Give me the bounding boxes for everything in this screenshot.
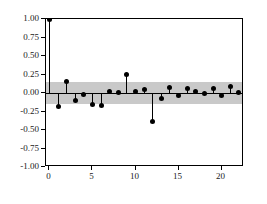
- x-axis-tick-label: 5: [81, 172, 101, 181]
- data-point-marker: [150, 119, 155, 124]
- y-axis-tick-label: 0.00: [23, 88, 39, 97]
- data-point-marker: [73, 98, 78, 103]
- y-axis-tick: [41, 166, 45, 167]
- x-axis-tick-label: 10: [125, 172, 145, 181]
- stem-line: [126, 75, 127, 94]
- plot-area: [45, 18, 243, 166]
- data-point-marker: [90, 102, 95, 107]
- x-axis-tick-label: 0: [38, 172, 58, 181]
- x-axis-tick: [221, 166, 222, 170]
- stem-line: [152, 93, 153, 122]
- x-axis-tick-label: 15: [168, 172, 188, 181]
- y-axis-tick-label: -0.75: [20, 144, 39, 153]
- data-point-marker: [47, 18, 52, 22]
- data-point-marker: [185, 86, 190, 91]
- data-point-marker: [176, 93, 181, 98]
- stem-line: [49, 19, 50, 93]
- data-point-marker: [211, 86, 216, 91]
- data-point-marker: [56, 104, 61, 109]
- y-axis-tick-label: 1.00: [23, 14, 39, 23]
- acf-chart-figure: 1.000.750.500.250.00-0.25-0.50-0.75-1.00…: [0, 0, 267, 204]
- data-point-marker: [116, 90, 121, 95]
- y-axis-tick-label: 0.75: [23, 33, 39, 42]
- x-axis-tick-label: 20: [211, 172, 231, 181]
- x-axis-tick: [48, 166, 49, 170]
- data-point-marker: [228, 84, 233, 89]
- y-axis-tick-label: -0.25: [20, 107, 39, 116]
- data-point-marker: [124, 72, 129, 77]
- y-axis-tick-label: -1.00: [20, 162, 39, 171]
- y-axis-tick-label: -0.50: [20, 125, 39, 134]
- data-point-marker: [99, 103, 104, 108]
- data-point-marker: [142, 87, 147, 92]
- data-point-marker: [64, 79, 69, 84]
- y-axis-tick-label: 0.25: [23, 70, 39, 79]
- x-axis-tick: [178, 166, 179, 170]
- y-axis-tick-label: 0.50: [23, 51, 39, 60]
- x-axis-tick: [135, 166, 136, 170]
- data-point-marker: [133, 89, 138, 94]
- x-axis-tick: [91, 166, 92, 170]
